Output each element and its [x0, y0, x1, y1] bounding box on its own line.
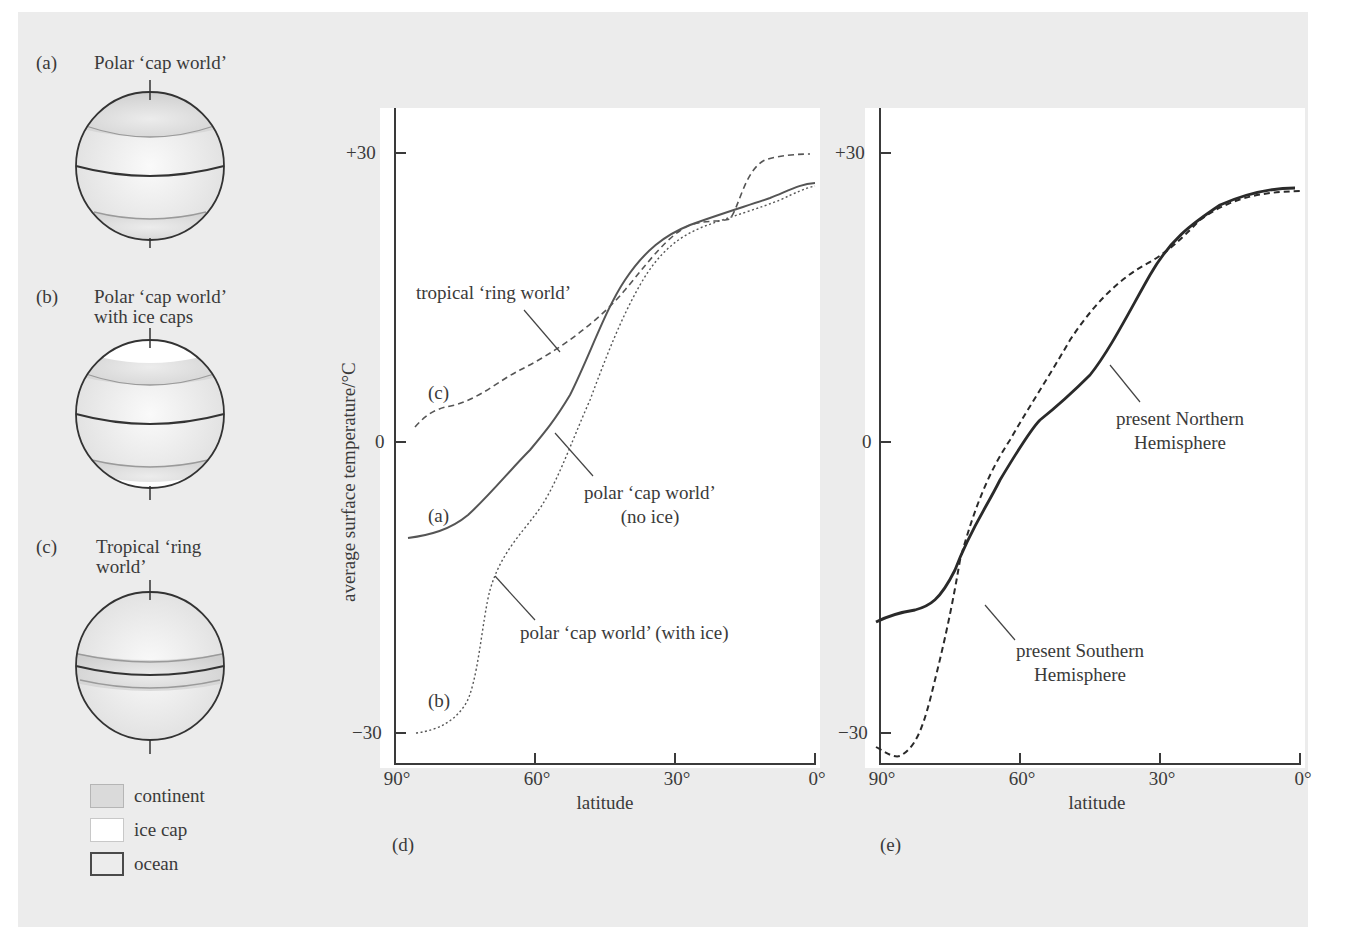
chart-e-ytick-0: 0: [862, 431, 872, 453]
label-southern-line1: present Southern: [990, 640, 1170, 662]
chart-d-xtick-0: 0°: [800, 768, 834, 790]
chart-d-panel-label: (d): [392, 834, 414, 856]
chart-d-x-axis-label: latitude: [545, 792, 665, 814]
chart-d-axes: [394, 108, 816, 764]
label-northern-line1: present Northern: [1085, 408, 1275, 430]
label-northern-line2: Hemisphere: [1085, 432, 1275, 454]
chart-e-xtick-0: 0°: [1286, 768, 1320, 790]
label-cap-no-ice-line1: polar ‘cap world’: [560, 482, 740, 504]
label-southern-line2: Hemisphere: [990, 664, 1170, 686]
chart-e-x-axis-label: latitude: [1037, 792, 1157, 814]
chart-e-ytick-plus30: +30: [835, 142, 865, 164]
chart-d-ytick-0: 0: [375, 431, 385, 453]
chart-e-xtick-90: 90°: [862, 768, 902, 790]
chart-e-ytick-minus30: −30: [838, 722, 868, 744]
leader-southern: [985, 605, 1015, 640]
chart-e-xtick-60: 60°: [1002, 768, 1042, 790]
chart-d-xtick-60: 60°: [517, 768, 557, 790]
chart-d-y-axis-label: average surface temperature/°C: [338, 362, 360, 602]
chart-d-xtick-30: 30°: [657, 768, 697, 790]
chart-d-xtick-90: 90°: [377, 768, 417, 790]
leader-ring-world: [524, 310, 560, 352]
label-curve-b: (b): [428, 690, 450, 712]
leader-cap-with-ice: [495, 576, 535, 620]
chart-d-ytick-minus30: −30: [352, 722, 382, 744]
label-cap-with-ice: polar ‘cap world’ (with ice): [520, 622, 729, 644]
label-curve-a: (a): [428, 505, 449, 527]
curve-cap-with-ice: [416, 186, 815, 733]
label-cap-no-ice-line2: (no ice): [560, 506, 740, 528]
leader-northern: [1110, 365, 1140, 402]
label-ring-world: tropical ‘ring world’: [416, 282, 571, 304]
chart-d-ytick-plus30: +30: [346, 142, 376, 164]
chart-e-xtick-30: 30°: [1142, 768, 1182, 790]
chart-e-panel-label: (e): [880, 834, 901, 856]
label-curve-c: (c): [428, 382, 449, 404]
curve-northern-hemisphere: [876, 188, 1295, 622]
